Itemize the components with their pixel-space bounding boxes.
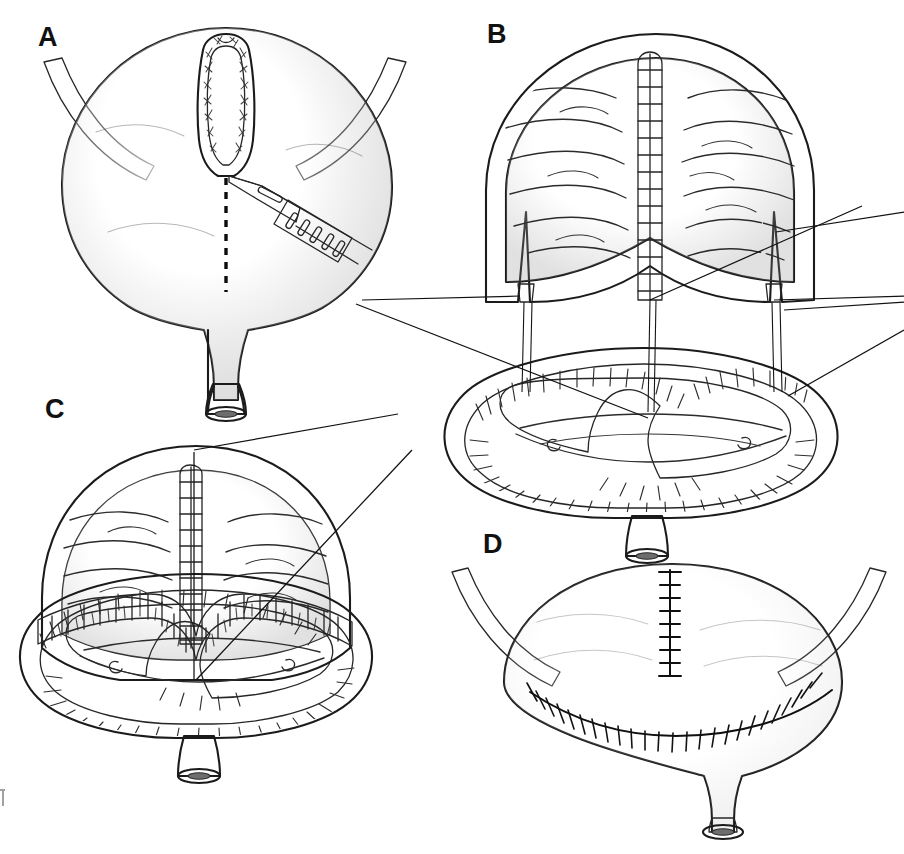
surgical-figure: A bbox=[0, 0, 904, 854]
urethral-orifice-c bbox=[188, 773, 210, 780]
urethral-orifice-a bbox=[215, 411, 237, 418]
panel-letter-c: C bbox=[45, 394, 65, 424]
urethral-orifice-b bbox=[636, 553, 658, 560]
urethral-orifice-d bbox=[712, 829, 734, 836]
panel-letter-a: A bbox=[38, 22, 58, 52]
figure-root: A bbox=[0, 0, 904, 854]
panel-letter-b: B bbox=[487, 19, 507, 49]
panel-letter-d: D bbox=[483, 529, 503, 559]
